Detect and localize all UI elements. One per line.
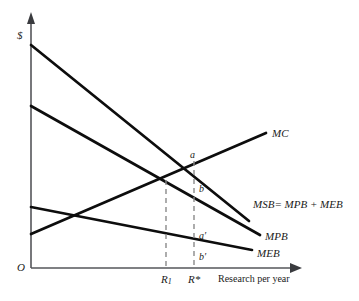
curve-msb [31,45,249,221]
origin-label: O [17,262,25,273]
point-label-b: b [199,184,204,194]
x-axis-label: Research per year [218,274,290,284]
x-tick-label-r1: R1 [161,274,172,286]
curve-label-msb: MSB= MPB + MEB [253,199,343,210]
point-label-b-prime: b′ [199,252,206,262]
point-label-a-prime: a′ [199,231,206,241]
curve-label-mpb: MPB [265,231,288,242]
x-tick-r1-subscript: 1 [168,277,172,286]
curve-mpb [31,106,260,235]
point-label-a: a [190,150,195,160]
diagram-canvas [0,0,359,301]
curve-meb [31,207,252,250]
x-tick-label-rstar: R* [188,274,200,285]
curve-label-mc: MC [272,128,289,139]
curve-label-meb: MEB [257,248,280,259]
economics-externality-diagram: $ O Research per year MC MSB= MPB + MEB … [0,0,359,301]
y-axis [27,12,35,268]
x-tick-r1-base: R [161,273,168,285]
y-axis-label: $ [17,30,23,41]
